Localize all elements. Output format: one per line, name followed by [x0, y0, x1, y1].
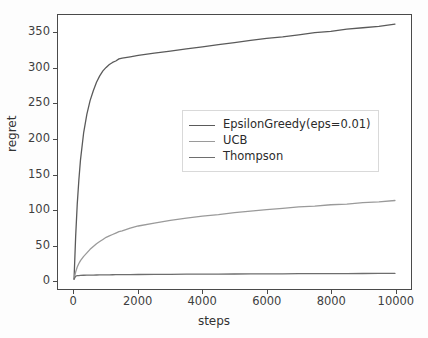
legend-item-label: EpsilonGreedy(eps=0.01) — [223, 119, 371, 131]
x-axis-title: steps — [0, 315, 428, 327]
y-tick-label: 100 — [0, 204, 50, 216]
y-tick-label: 0 — [0, 275, 50, 287]
y-tick-label: 300 — [0, 62, 50, 74]
legend-line-icon — [189, 151, 215, 163]
x-tick-label: 8000 — [317, 296, 346, 308]
matplotlib-figure: 050100150200250300350 020004000600080001… — [0, 0, 428, 338]
legend-item-ucb: UCB — [189, 133, 371, 149]
legend-item-label: UCB — [223, 135, 247, 147]
legend-line-icon — [189, 119, 215, 131]
legend-item-label: Thompson — [223, 151, 283, 163]
y-tick-mark — [53, 103, 57, 104]
y-tick-mark — [53, 68, 57, 69]
series-line — [74, 273, 395, 279]
x-tick-label: 0 — [69, 296, 76, 308]
chart-legend: EpsilonGreedy(eps=0.01) UCB Thompson — [182, 110, 379, 172]
y-tick-mark — [53, 210, 57, 211]
legend-item-thompson: Thompson — [189, 149, 371, 165]
y-tick-mark — [53, 175, 57, 176]
y-axis-title: regret — [6, 116, 18, 152]
legend-line-icon — [189, 135, 215, 147]
y-tick-label: 250 — [0, 97, 50, 109]
x-tick-label: 4000 — [188, 296, 217, 308]
y-tick-label: 350 — [0, 26, 50, 38]
y-tick-mark — [53, 32, 57, 33]
y-tick-mark — [53, 246, 57, 247]
y-tick-mark — [53, 139, 57, 140]
x-tick-label: 6000 — [252, 296, 281, 308]
y-tick-label: 150 — [0, 169, 50, 181]
y-tick-mark — [53, 281, 57, 282]
x-tick-label: 2000 — [123, 296, 152, 308]
y-tick-label: 50 — [0, 240, 50, 252]
x-tick-label: 10000 — [378, 296, 415, 308]
legend-item-epsilongreedy: EpsilonGreedy(eps=0.01) — [189, 117, 371, 133]
series-line — [74, 200, 395, 279]
